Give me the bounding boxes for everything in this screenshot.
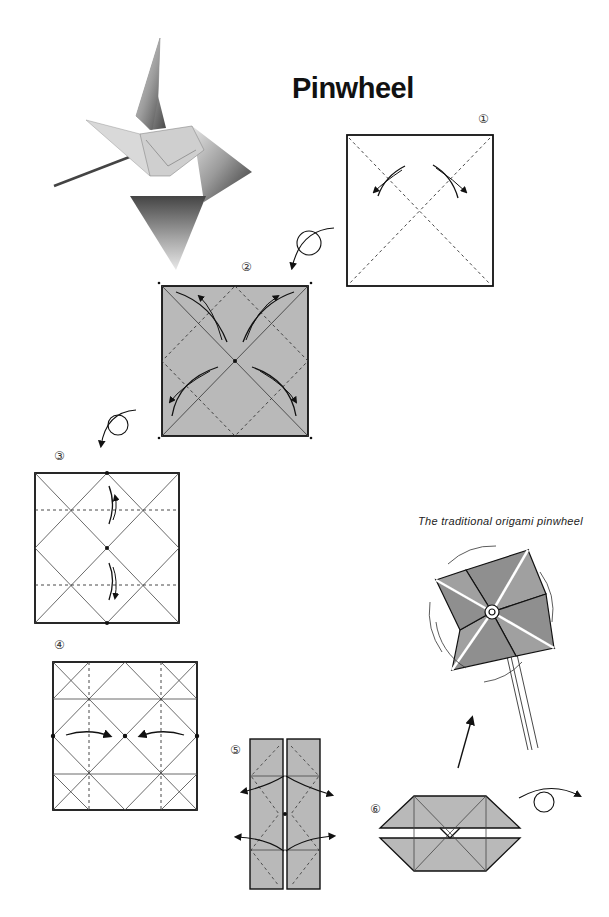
step-1-diagram (347, 135, 493, 286)
turn-over-arrow-3 (519, 788, 580, 812)
step-2-diagram (158, 282, 313, 440)
pinwheel-illustration (429, 546, 554, 750)
result-arrow (458, 718, 472, 768)
pinwheel-photo (54, 38, 252, 270)
turn-over-arrow-2 (101, 410, 136, 446)
turn-over-arrow-1 (292, 228, 334, 268)
step-6-diagram (380, 796, 520, 871)
step-5-diagram (236, 739, 334, 889)
diagram-canvas (0, 0, 609, 917)
step-4-diagram (51, 662, 199, 810)
step-3-diagram (35, 471, 179, 625)
